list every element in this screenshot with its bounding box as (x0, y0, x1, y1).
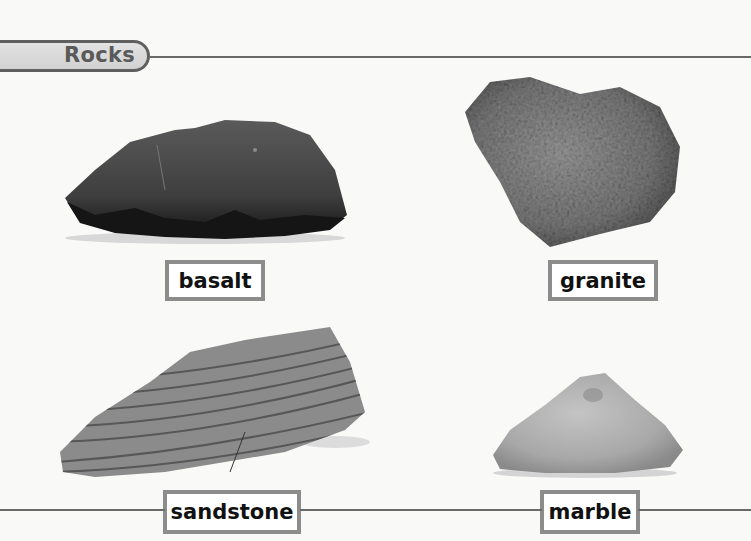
marble-label: marble (540, 490, 640, 534)
bottom-divider-line-middle (300, 509, 542, 511)
sandstone-label: sandstone (163, 490, 301, 534)
bottom-divider-line-left (0, 509, 165, 511)
basalt-rock-image (55, 110, 350, 245)
top-divider-line (150, 56, 751, 58)
granite-label: granite (548, 260, 658, 301)
sandstone-rock-image (55, 322, 370, 484)
bottom-divider-line-right (638, 509, 751, 511)
basalt-label: basalt (165, 260, 265, 301)
marble-rock-image (485, 365, 685, 480)
section-title: Rocks (64, 43, 135, 67)
granite-rock-image (450, 72, 705, 257)
